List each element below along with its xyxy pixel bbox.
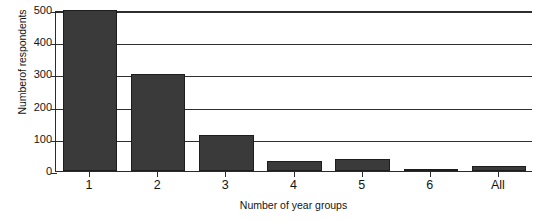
y-tick-label: 100 <box>16 134 52 145</box>
x-axis-tick <box>498 172 499 177</box>
y-tick-label: 400 <box>16 37 52 48</box>
y-tick-label: 200 <box>16 102 52 113</box>
x-tick-label: All <box>468 178 528 193</box>
x-tick-label: 1 <box>59 178 119 193</box>
clipped-caption <box>0 214 540 221</box>
x-tick-label: 2 <box>127 178 187 193</box>
bar <box>131 74 186 171</box>
x-tick-label: 4 <box>264 178 324 193</box>
bar <box>472 166 527 171</box>
bar <box>404 169 459 171</box>
x-axis-tick <box>225 172 226 177</box>
x-axis-tick <box>157 172 158 177</box>
bar <box>199 135 254 171</box>
x-tick-label: 3 <box>195 178 255 193</box>
y-tick-label: 0 <box>16 166 52 177</box>
x-axis-title: Number of year groups <box>55 199 532 211</box>
y-axis-tick-labels: 500 400 300 200 100 0 <box>16 0 52 221</box>
x-tick-label: 5 <box>332 178 392 193</box>
plot-area <box>55 11 532 172</box>
x-axis-tick-labels: 123456All <box>55 178 532 196</box>
bar <box>335 159 390 171</box>
y-tick-label: 500 <box>16 5 52 16</box>
x-axis-tick <box>430 172 431 177</box>
x-tick-label: 6 <box>400 178 460 193</box>
bar-series <box>56 12 532 171</box>
x-axis-tick <box>362 172 363 177</box>
x-axis-tick <box>294 172 295 177</box>
x-axis-tick <box>89 172 90 177</box>
bar <box>267 161 322 171</box>
bar-chart-figure: Numberof respondents 500 400 300 200 100… <box>0 0 540 221</box>
y-tick-label: 300 <box>16 69 52 80</box>
bar <box>63 10 118 171</box>
